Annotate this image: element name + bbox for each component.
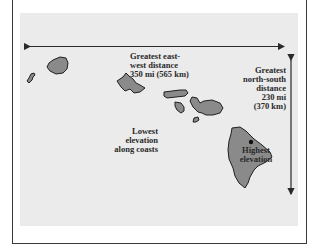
island-kauai — [47, 57, 68, 74]
island-molokai — [164, 90, 188, 98]
highest-elevation-label: Highest elevation — [232, 146, 280, 164]
island-lanai — [175, 102, 184, 113]
island-maui — [190, 97, 223, 115]
north-south-distance-label: Greatest north-south distance 230 mi (37… — [243, 66, 286, 111]
east-west-distance-label: Greatest east- west distance 350 mi (565… — [130, 52, 189, 79]
island-kahoolawe — [193, 117, 199, 122]
hawaii-map — [0, 0, 316, 247]
lowest-elevation-label: Lowest elevation along coasts — [108, 127, 158, 154]
island-niihau — [27, 73, 35, 83]
highest-point-marker — [249, 140, 253, 144]
